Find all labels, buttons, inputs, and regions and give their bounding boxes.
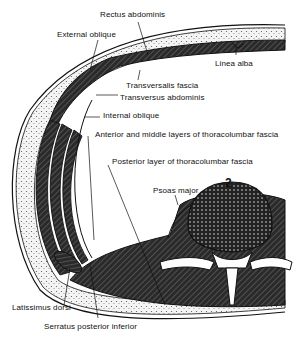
label-transversalis-fascia: Transversalis fascia [126,81,198,90]
label-transversus-abdominis: Transversus abdominis [120,93,205,102]
vertebral-body [188,182,272,252]
transversalis-fascia-line [75,100,92,258]
anatomy-illustration [0,0,302,340]
label-anterior-middle-layers: Anterior and middle layers of thoracolum… [95,130,278,139]
label-rectus-abdominis: Rectus abdominis [100,10,165,19]
label-serratus-posterior-inferior: Serratus posterior inferior [44,322,137,331]
label-posterior-layer: Posterior layer of thoracolumbar fascia [112,157,253,166]
label-linea-alba: Linea alba [215,59,253,68]
label-external-oblique: External oblique [57,30,116,39]
label-latissimus-dorsi: Latissimus dorsi [12,303,71,312]
label-psoas-major: Psoas major [153,186,199,195]
label-vertebra-number: 2 [225,176,232,190]
label-internal-oblique: Internal oblique [103,111,159,120]
